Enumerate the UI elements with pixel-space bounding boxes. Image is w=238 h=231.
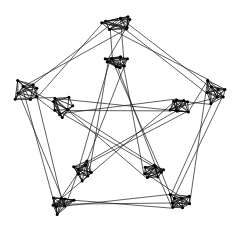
graph-node — [181, 206, 184, 209]
graph-node — [180, 197, 183, 200]
graph-node — [119, 17, 122, 20]
graph-node — [154, 165, 157, 168]
graph-node — [174, 109, 177, 112]
graph-node — [61, 116, 64, 119]
graph-node — [173, 197, 176, 200]
graph-node — [160, 171, 163, 174]
graph-node — [55, 205, 58, 208]
graph-node — [63, 197, 66, 200]
graph-node — [52, 196, 55, 199]
graph-node — [187, 110, 190, 113]
graph-node — [52, 100, 55, 103]
graph-node — [108, 28, 111, 31]
graph-node — [119, 55, 122, 58]
graph-node — [217, 88, 220, 91]
graph-node — [169, 193, 172, 196]
graph-node — [29, 98, 32, 101]
graph-node — [209, 102, 212, 105]
graph-node — [22, 85, 25, 88]
graph-node — [104, 20, 107, 23]
graph-node — [100, 21, 103, 24]
graph-node — [171, 206, 174, 209]
graph-node — [58, 113, 61, 116]
graph-node — [63, 205, 66, 208]
graph-node — [60, 197, 63, 200]
graph-node — [188, 202, 191, 205]
graph-node — [146, 176, 149, 179]
graph-node — [216, 96, 219, 99]
graph-node — [14, 98, 17, 101]
graph-node — [71, 104, 74, 107]
graph-node — [188, 195, 191, 198]
graph-node — [86, 175, 89, 178]
graph-node — [35, 95, 38, 98]
graph-node — [128, 18, 131, 21]
graph-node — [172, 100, 175, 103]
cluster-internal-edge — [173, 203, 190, 204]
graph-node — [144, 166, 147, 169]
graph-node — [77, 168, 80, 171]
graph-node — [222, 96, 225, 99]
graph-node — [106, 61, 109, 64]
graph-canvas — [0, 0, 238, 231]
graph-node — [186, 100, 189, 103]
graph-node — [32, 83, 35, 86]
graph-node — [66, 108, 69, 111]
graph-node — [206, 79, 209, 82]
graph-node — [16, 79, 19, 82]
graph-node — [182, 99, 185, 102]
graph-node — [110, 57, 113, 60]
graph-figure — [0, 0, 238, 231]
graph-node — [72, 165, 75, 168]
graph-node — [127, 15, 130, 18]
graph-node — [16, 92, 19, 95]
graph-node — [126, 26, 129, 29]
graph-node — [56, 213, 59, 216]
graph-node — [210, 85, 213, 88]
graph-node — [123, 64, 126, 67]
graph-node — [90, 171, 93, 174]
graph-node — [206, 91, 209, 94]
graph-node — [35, 87, 38, 90]
graph-node — [67, 96, 70, 99]
graph-node — [77, 173, 80, 176]
graph-node — [53, 109, 56, 112]
graph-node — [86, 160, 89, 163]
graph-node — [53, 97, 56, 100]
graph-node — [175, 98, 178, 101]
graph-node — [126, 57, 129, 60]
graph-node — [52, 204, 55, 207]
graph-node — [169, 108, 172, 111]
graph-node — [81, 179, 84, 182]
graph-node — [84, 164, 87, 167]
graph-node — [115, 65, 118, 68]
graph-node — [223, 88, 226, 91]
graph-node — [143, 172, 146, 175]
graph-node — [72, 199, 75, 202]
graph-node — [104, 57, 107, 60]
graph-node — [171, 202, 174, 205]
graph-node — [162, 168, 165, 171]
graph-node — [156, 176, 159, 179]
graph-node — [119, 66, 122, 69]
